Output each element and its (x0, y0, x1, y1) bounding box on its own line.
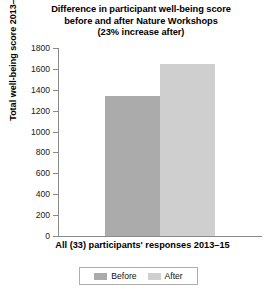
legend-swatch-after (148, 273, 161, 280)
legend-swatch-before (94, 273, 107, 280)
y-axis-tick-label: 1400 (2, 86, 50, 95)
bar-before[interactable] (105, 96, 160, 236)
bar-chart: Difference in participant well-being sco… (0, 0, 275, 301)
y-axis-tick (53, 236, 58, 237)
y-axis-tick-label: 400 (2, 190, 50, 199)
plot-area (58, 48, 262, 236)
chart-title-line-1: Difference in participant well-being sco… (18, 4, 264, 16)
y-axis-tick-label: 800 (2, 148, 50, 157)
chart-title-line-2: before and after Nature Workshops (18, 16, 264, 28)
x-axis-line (58, 236, 262, 237)
y-axis-tick-label: 600 (2, 169, 50, 178)
chart-legend: Before After (79, 267, 198, 285)
legend-item-before[interactable]: Before (94, 272, 136, 281)
x-axis-label: All (33) participants' responses 2013–15 (20, 240, 265, 250)
legend-label-before: Before (111, 272, 136, 281)
y-axis-tick-label: 1800 (2, 44, 50, 53)
legend-item-after[interactable]: After (148, 272, 183, 281)
chart-title: Difference in participant well-being sco… (18, 4, 264, 39)
y-axis-tick-label: 1200 (2, 107, 50, 116)
y-axis-tick-label: 1000 (2, 128, 50, 137)
legend-label-after: After (165, 272, 183, 281)
chart-title-line-3: (23% increase after) (18, 27, 264, 39)
y-axis-tick-label: 200 (2, 211, 50, 220)
bar-after[interactable] (160, 64, 215, 236)
y-axis-tick-label: 1600 (2, 65, 50, 74)
